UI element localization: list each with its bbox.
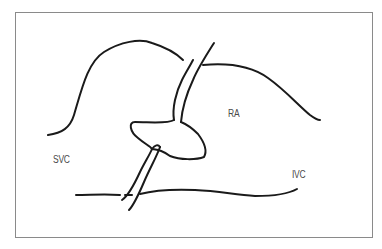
- catheter-loop: [131, 120, 206, 159]
- catheter-upper-right: [181, 43, 214, 122]
- label-ra: RA: [228, 108, 239, 119]
- label-svc: SVC: [53, 154, 70, 165]
- label-ivc: IVC: [292, 169, 305, 180]
- ivc-outline-right: [140, 189, 297, 196]
- ra-outline: [203, 64, 320, 120]
- svc-outline: [48, 41, 183, 135]
- heart-diagram: [0, 0, 382, 249]
- catheter-lower-right: [129, 147, 160, 210]
